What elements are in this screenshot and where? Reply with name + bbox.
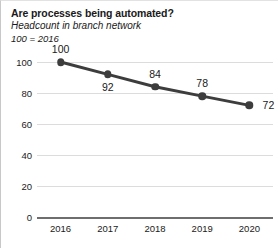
data-point-label: 78 — [196, 77, 208, 89]
chart-figure: Are processes being automated? Headcount… — [0, 0, 278, 248]
data-point-marker — [198, 92, 206, 100]
data-point-marker — [104, 71, 112, 79]
data-point-label: 100 — [52, 43, 70, 55]
data-point-marker — [246, 102, 254, 110]
data-point-label: 92 — [102, 81, 114, 93]
data-point-marker — [151, 83, 159, 91]
data-point-label: 84 — [149, 68, 161, 80]
data-point-marker — [57, 58, 65, 66]
series-line — [1, 1, 278, 248]
plot-area: 020406080100 20162017201820192020 100928… — [1, 1, 278, 248]
data-point-label: 72 — [263, 99, 275, 111]
